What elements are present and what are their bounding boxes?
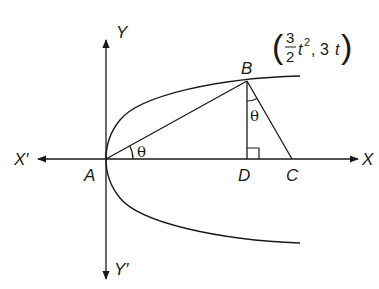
coord-separator: , 3 [311,41,329,58]
coord-denominator: 2 [286,48,294,65]
label-point-A: A [83,166,95,185]
label-y-axis: Y [116,23,129,42]
angle-arc-A [130,146,133,159]
coord-close-paren: ) [341,27,352,65]
coord-open-paren: ( [272,27,284,65]
label-x-prime: X′ [13,150,29,169]
coordinates-B: ( 3 2 t 2 , 3 t ) [272,27,352,65]
label-theta-A: θ [137,143,146,161]
label-point-B: B [241,59,252,78]
parabola-diagram: Y Y′ X′ X A B D C θ θ ( 3 2 t 2 , 3 t ) [0,0,379,289]
angle-arc-B [247,98,257,101]
label-y-prime: Y′ [114,260,129,279]
label-point-C: C [286,166,299,185]
coord-numerator: 3 [286,29,294,46]
right-angle-marker [247,148,259,159]
label-x-axis: X [361,150,374,169]
label-point-D: D [238,166,250,185]
coord-t: t [298,41,303,58]
label-theta-B: θ [250,107,259,125]
coord-exponent: 2 [304,36,310,48]
coord-t2: t [335,41,340,58]
